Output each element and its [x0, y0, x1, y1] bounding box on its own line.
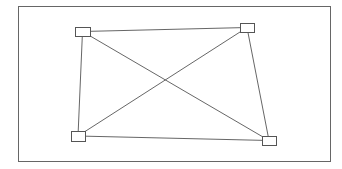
diagram-canvas: [0, 0, 342, 169]
edge-top-left-to-bottom-left: [78, 32, 83, 137]
edge-top-right-to-bottom-right: [247, 28, 269, 141]
edge-top-left-to-bottom-right: [83, 32, 270, 141]
node-top-left[interactable]: [76, 28, 91, 37]
edges-group: [78, 28, 269, 141]
node-bottom-left[interactable]: [72, 132, 86, 142]
edge-bottom-left-to-bottom-right: [78, 136, 269, 141]
node-bottom-right[interactable]: [263, 137, 277, 146]
node-top-right[interactable]: [241, 24, 255, 33]
edge-top-left-to-top-right: [83, 28, 248, 32]
